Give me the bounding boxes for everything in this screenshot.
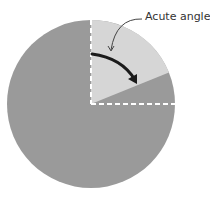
acute-angle-diagram xyxy=(0,0,210,198)
acute-angle-label: Acute angle xyxy=(145,10,210,23)
